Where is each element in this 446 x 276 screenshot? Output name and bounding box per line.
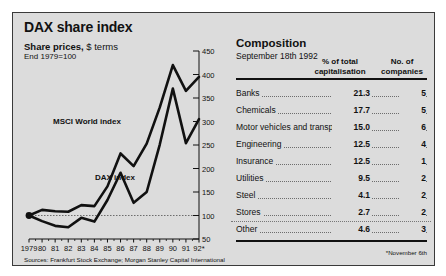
composition-title: Composition xyxy=(236,37,306,49)
row-sector-name: Banks xyxy=(236,88,262,98)
table-row: Stores2.72 xyxy=(236,204,427,221)
column-header-percent-line1: % of total xyxy=(307,57,373,67)
row-percent-capitalisation: 12.5 xyxy=(332,156,372,166)
y-tick-label: 250 xyxy=(202,141,222,150)
y-tick-label: 50 xyxy=(202,235,222,244)
row-sector-name: Other xyxy=(236,224,259,234)
row-percent-capitalisation: 4.1 xyxy=(332,190,372,200)
row-number-of-companies: 4 xyxy=(400,139,426,149)
row-percent-capitalisation: 21.3 xyxy=(332,88,372,98)
table-bottom-rule xyxy=(236,240,427,242)
plot-area: 50100150200250300350400450 1979808182838… xyxy=(13,13,223,267)
row-sector-name: Stores xyxy=(236,207,263,217)
row-number-of-companies: 3 xyxy=(400,224,426,234)
row-percent-capitalisation: 9.5 xyxy=(332,173,372,183)
table-row: Insurance12.51 xyxy=(236,153,427,170)
x-tick-label: 92* xyxy=(188,244,210,253)
sources-note: Sources: Frankfurt Stock Exchange; Morga… xyxy=(24,256,225,263)
row-sector-name: Motor vehicles and transport xyxy=(236,122,345,132)
row-sector-name: Engineering xyxy=(236,139,283,149)
row-sector-name: Steel xyxy=(236,190,257,200)
row-number-of-companies: 2 xyxy=(400,207,426,217)
table-row: Steel4.12 xyxy=(236,187,427,204)
row-percent-capitalisation: 12.5 xyxy=(332,139,372,149)
table-row: Motor vehicles and transport15.06 xyxy=(236,119,427,136)
column-header-no-line1: No. of xyxy=(377,57,427,67)
row-sector-name: Chemicals xyxy=(236,105,278,115)
y-tick-label: 450 xyxy=(202,47,222,56)
row-percent-capitalisation: 4.6 xyxy=(332,224,372,234)
y-tick-label: 200 xyxy=(202,165,222,174)
share-price-chart: DAX share index Share prices, $ terms En… xyxy=(13,13,223,267)
column-header-percent-capitalisation: % of total capitalisation xyxy=(307,57,373,76)
table-dotted-separator xyxy=(231,221,431,222)
footnote: *November 6th xyxy=(386,249,427,256)
table-header-rule xyxy=(236,78,427,80)
row-number-of-companies: 2 xyxy=(400,190,426,200)
table-row: Banks21.35 xyxy=(236,85,427,102)
series-label-dax-index: DAX index xyxy=(95,173,135,182)
composition-date: September 18th 1992 xyxy=(236,51,318,61)
plot-svg xyxy=(13,13,223,267)
table-row: Chemicals17.75 xyxy=(236,102,427,119)
row-number-of-companies: 2 xyxy=(400,173,426,183)
y-tick-label: 300 xyxy=(202,118,222,127)
row-sector-name: Insurance xyxy=(236,156,275,166)
composition-table: Composition September 18th 1992 % of tot… xyxy=(227,13,436,267)
row-number-of-companies: 6 xyxy=(400,122,426,132)
y-tick-label: 350 xyxy=(202,94,222,103)
table-row: Engineering12.54 xyxy=(236,136,427,153)
row-number-of-companies: 5 xyxy=(400,88,426,98)
series-start-marker xyxy=(26,212,33,219)
table-rows: Banks21.35Chemicals17.75Motor vehicles a… xyxy=(236,85,427,238)
row-sector-name: Utilities xyxy=(236,173,265,183)
table-row: Utilities9.52 xyxy=(236,170,427,187)
row-percent-capitalisation: 2.7 xyxy=(332,207,372,217)
row-number-of-companies: 5 xyxy=(400,105,426,115)
series-line-dax-index xyxy=(29,89,199,228)
row-percent-capitalisation: 17.7 xyxy=(332,105,372,115)
y-tick-label: 400 xyxy=(202,71,222,80)
column-header-number-of-companies: No. of companies xyxy=(377,57,427,76)
row-number-of-companies: 1 xyxy=(400,156,426,166)
table-row: Other4.63 xyxy=(236,221,427,238)
y-tick-label: 150 xyxy=(202,188,222,197)
chart-panel: DAX share index Share prices, $ terms En… xyxy=(12,12,435,266)
series-label-msci-world-index: MSCI World index xyxy=(53,117,121,126)
row-percent-capitalisation: 15.0 xyxy=(332,122,372,132)
column-header-percent-line2: capitalisation xyxy=(307,67,373,77)
y-tick-label: 100 xyxy=(202,212,222,221)
column-header-no-line2: companies xyxy=(377,67,427,77)
